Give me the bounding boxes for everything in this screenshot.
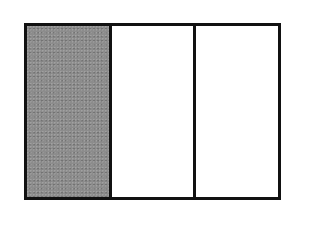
segment-2-unshaded [109, 26, 194, 197]
segment-1-shaded [27, 26, 109, 197]
fraction-bar-diagram [24, 23, 281, 200]
segment-3-unshaded [193, 26, 278, 197]
